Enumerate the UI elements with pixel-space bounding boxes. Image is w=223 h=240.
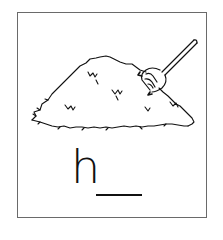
word-prompt: h: [71, 148, 151, 200]
haystack-icon: [32, 56, 194, 130]
first-letter: h: [71, 144, 100, 190]
blank-line: [96, 194, 142, 196]
pitchfork-icon: [138, 40, 197, 95]
